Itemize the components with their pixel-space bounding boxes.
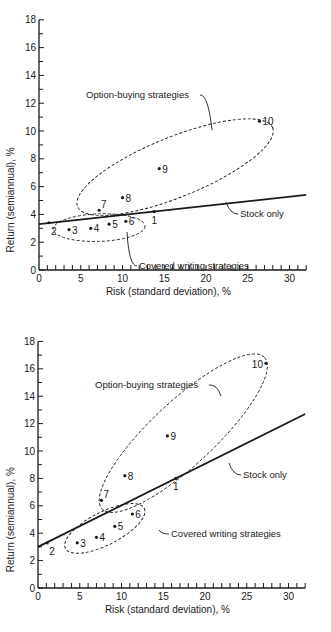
annotations	[127, 95, 238, 266]
y-tick-label: 16	[24, 363, 36, 374]
data-point-label-7: 7	[103, 489, 109, 500]
x-tick-label: 20	[199, 591, 211, 602]
y-tick-label: 10	[24, 446, 36, 457]
data-point-4	[95, 536, 98, 539]
data-point-label-5: 5	[112, 219, 118, 230]
y-tick-label: 8	[29, 473, 35, 484]
data-point-8	[123, 474, 126, 477]
y-axis-label: Return (semiannual), %	[5, 467, 16, 572]
data-point-label-3: 3	[72, 225, 78, 236]
y-axis-label: Return (semiannual), %	[5, 147, 16, 252]
x-tick-label: 15	[159, 273, 171, 284]
data-point-1	[174, 477, 177, 480]
x-tick-label: 10	[117, 273, 129, 284]
y-tick-label: 14	[25, 70, 37, 81]
x-axis-label: Risk (standard deviation), %	[106, 286, 231, 297]
data-point-label-10: 10	[262, 116, 274, 127]
data-point-label-1: 1	[151, 215, 157, 226]
x-tick-label: 20	[200, 273, 212, 284]
option-buying-label: Option-buying strategies	[86, 89, 189, 100]
data-point-label-2: 2	[51, 226, 57, 237]
x-tick-label: 30	[284, 273, 296, 284]
x-tick-label: 5	[78, 273, 84, 284]
data-point-9	[158, 167, 161, 170]
y-tick-label: 18	[24, 336, 36, 347]
data-point-2	[47, 221, 50, 224]
data-point-label-8: 8	[128, 471, 134, 482]
y-tick-label: 18	[25, 14, 37, 25]
x-tick-label: 5	[77, 591, 83, 602]
y-tick-label: 8	[30, 153, 36, 164]
y-tick-label: 4	[29, 528, 35, 539]
x-tick-label: 15	[158, 591, 170, 602]
y-tick-label: 10	[25, 126, 37, 137]
data-point-label-6: 6	[129, 216, 135, 227]
y-tick-label: 16	[25, 42, 37, 53]
data-point-9	[166, 434, 169, 437]
data-point-6	[124, 220, 127, 223]
x-axis-label: Risk (standard deviation), %	[105, 604, 230, 615]
y-tick-label: 12	[25, 98, 37, 109]
stock-only-leader	[229, 463, 241, 475]
option-buying-leader	[209, 385, 221, 396]
covered-writing-label: Covered writing strategies	[171, 528, 281, 539]
data-point-label-9: 9	[170, 431, 176, 442]
y-tick-label: 14	[24, 391, 36, 402]
option-buying-label: Option-buying strategies	[95, 379, 198, 390]
data-point-label-4: 4	[94, 223, 100, 234]
data-point-1	[153, 210, 156, 213]
data-point-label-4: 4	[99, 532, 105, 543]
data-point-3	[67, 228, 70, 231]
y-tick-label: 12	[24, 418, 36, 429]
y-tick-label: 2	[30, 237, 36, 248]
y-tick-label: 6	[30, 181, 36, 192]
data-point-5	[108, 223, 111, 226]
chart-bottom: 024681012141618051015202530 12345678910 …	[0, 320, 331, 632]
data-point-label-6: 6	[135, 509, 141, 520]
x-tick-label: 25	[241, 591, 253, 602]
covered-writing-ellipse	[58, 494, 152, 563]
data-point-label-10: 10	[252, 359, 264, 370]
x-tick-label: 30	[283, 591, 295, 602]
data-point-4	[89, 227, 92, 230]
y-tick-label: 2	[29, 555, 35, 566]
y-tick-label: 4	[30, 209, 36, 220]
data-point-10	[264, 362, 267, 365]
covered-writing-label: Covered writing strategies	[139, 260, 249, 271]
chart-top: 024681012141618051015202530 12345678910 …	[0, 0, 331, 310]
annotations	[159, 385, 241, 534]
data-point-8	[121, 196, 124, 199]
data-point-6	[131, 512, 134, 515]
y-tick-label: 6	[29, 500, 35, 511]
data-point-5	[113, 525, 116, 528]
strategy-ellipses	[53, 100, 284, 243]
data-point-label-2: 2	[49, 546, 55, 557]
data-point-label-1: 1	[173, 481, 179, 492]
x-tick-label: 0	[36, 273, 42, 284]
data-point-3	[76, 541, 79, 544]
x-tick-label: 10	[116, 591, 128, 602]
chart-bottom-svg: 024681012141618051015202530 12345678910 …	[0, 320, 331, 632]
option-buying-leader	[200, 95, 212, 130]
data-point-10	[258, 120, 261, 123]
data-point-2	[46, 541, 49, 544]
stock-only-label: Stock only	[243, 469, 287, 480]
data-point-label-7: 7	[101, 199, 107, 210]
covered-writing-leader	[159, 530, 169, 534]
axes: 024681012141618051015202530	[25, 14, 306, 284]
x-tick-label: 0	[35, 591, 41, 602]
data-point-label-5: 5	[118, 521, 124, 532]
data-point-label-8: 8	[126, 193, 132, 204]
data-point-label-9: 9	[162, 164, 168, 175]
data-point-label-3: 3	[80, 538, 86, 549]
x-tick-label: 25	[242, 273, 254, 284]
stock-only-label: Stock only	[240, 208, 284, 219]
chart-top-svg: 024681012141618051015202530 12345678910 …	[0, 0, 331, 310]
